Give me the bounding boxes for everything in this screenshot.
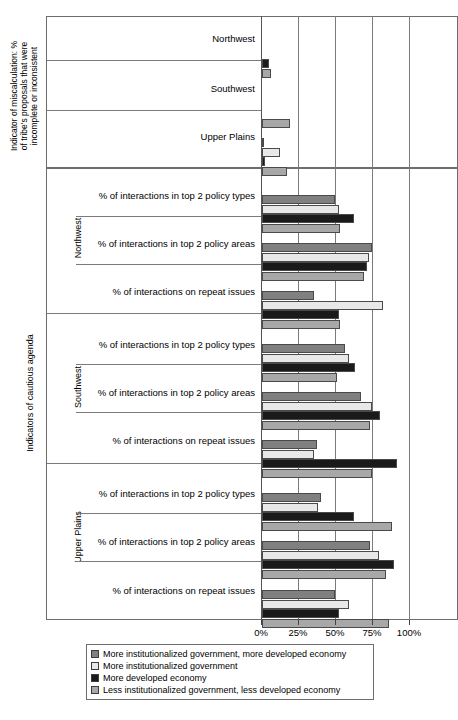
bar [262, 560, 394, 569]
bar [262, 354, 349, 363]
row-label-nw-policy-types: % of interactions in top 2 policy types [60, 190, 255, 201]
bar [262, 503, 318, 512]
legend-item: More institutionalized government [91, 660, 369, 672]
x-tick-label: 25% [281, 627, 315, 638]
separator [47, 313, 262, 314]
bar [262, 138, 264, 147]
bar [262, 450, 314, 459]
plot-area [261, 16, 410, 620]
bar [262, 253, 369, 262]
bar [262, 551, 379, 560]
chart-figure: Indicator of miscalculation: % of tribe'… [0, 0, 458, 720]
bar [262, 344, 345, 353]
bar [262, 469, 372, 478]
row-label-sw-policy-areas: % of interactions in top 2 policy areas [60, 387, 255, 398]
bar [262, 512, 354, 521]
bar [262, 459, 397, 468]
bar [262, 195, 335, 204]
legend-label: Less institutionalized government, less … [103, 685, 340, 695]
separator [76, 264, 262, 265]
x-tick-mark [261, 620, 262, 625]
bar [262, 119, 290, 128]
bar [262, 157, 265, 166]
bar [262, 301, 383, 310]
x-tick-mark [409, 620, 410, 625]
row-label-sw-repeat-issues: % of interactions on repeat issues [60, 435, 255, 446]
bar [262, 224, 340, 233]
separator [47, 110, 262, 111]
legend-swatch-icon [91, 650, 99, 658]
x-tick-label: 75% [355, 627, 389, 638]
bar [262, 243, 372, 252]
legend-swatch-icon [91, 674, 99, 682]
x-tick-mark [335, 620, 336, 625]
row-label-northwest: Northwest [60, 33, 255, 44]
row-label-southwest: Southwest [60, 83, 255, 94]
bar [262, 148, 280, 157]
bar [262, 411, 380, 420]
legend-label: More institutionalized government [103, 661, 238, 671]
row-label-nw-repeat-issues: % of interactions on repeat issues [60, 286, 255, 297]
row-label-sw-policy-types: % of interactions in top 2 policy types [60, 339, 255, 350]
separator [76, 216, 262, 217]
bottom-panel-caption: Indicators of cautious agenda [25, 313, 37, 473]
bar [262, 609, 339, 618]
bar [262, 373, 337, 382]
bar [262, 69, 271, 78]
row-label-upper-plains: Upper Plains [60, 131, 255, 142]
bar [262, 205, 339, 214]
bar [262, 590, 335, 599]
x-tick-mark [298, 620, 299, 625]
legend-item: More institutionalized government, more … [91, 648, 369, 660]
bar [262, 291, 314, 300]
bar [262, 570, 386, 579]
legend-item: Less institutionalized government, less … [91, 684, 369, 696]
bar [262, 421, 370, 430]
bar [262, 310, 339, 319]
row-label-up-policy-types: % of interactions in top 2 policy types [60, 488, 255, 499]
legend-label: More developed economy [103, 673, 207, 683]
separator [76, 364, 262, 365]
row-label-up-policy-areas: % of interactions in top 2 policy areas [60, 536, 255, 547]
bar [262, 363, 355, 372]
bar [262, 522, 392, 531]
bar [262, 167, 287, 176]
separator [76, 513, 262, 514]
bar [262, 493, 321, 502]
legend-swatch-icon [91, 686, 99, 694]
gridline-100 [409, 16, 410, 620]
separator [76, 412, 262, 413]
bar [262, 440, 317, 449]
bar [262, 600, 349, 609]
bar [262, 262, 367, 271]
separator [47, 463, 262, 464]
bar [262, 59, 269, 68]
bar [262, 402, 372, 411]
separator [47, 60, 262, 61]
x-tick-mark [372, 620, 373, 625]
row-label-nw-policy-areas: % of interactions in top 2 policy areas [60, 238, 255, 249]
x-tick-label: 100% [392, 627, 426, 638]
bar [262, 541, 370, 550]
bar [262, 214, 354, 223]
x-tick-label: 0% [244, 627, 278, 638]
row-label-up-repeat-issues: % of interactions on repeat issues [60, 585, 255, 596]
legend-item: More developed economy [91, 672, 369, 684]
x-tick-label: 50% [318, 627, 352, 638]
top-panel-caption: Indicator of miscalculation: % of tribe'… [9, 26, 43, 166]
legend-swatch-icon [91, 662, 99, 670]
legend-label: More institutionalized government, more … [103, 649, 346, 659]
chart-legend: More institutionalized government, more … [86, 644, 374, 700]
separator [76, 561, 262, 562]
bar [262, 272, 364, 281]
bar [262, 320, 340, 329]
bar [262, 392, 361, 401]
